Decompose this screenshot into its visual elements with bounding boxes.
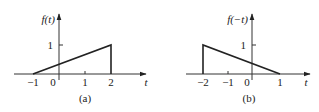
ylabel-b: f(−t) <box>227 13 248 26</box>
xlabel-a: t <box>144 76 148 88</box>
signal-f-t <box>33 45 111 74</box>
ytick-label-b: 1 <box>241 39 247 51</box>
xtick-label-b-1: −1 <box>222 76 234 88</box>
panel-b: f(−t) t 1 −2 −1 0 1 (b) <box>186 13 310 105</box>
xtick-label-b-3: 1 <box>277 76 283 88</box>
caption-a: (a) <box>79 92 92 105</box>
panel-a: f(t) t 1 −1 0 1 2 (a) <box>14 13 148 105</box>
xtick-label-a-1: 0 <box>50 76 56 88</box>
xtick-label-b-0: −2 <box>197 76 209 88</box>
xtick-label-b-2: 0 <box>244 76 250 88</box>
ytick-label-a: 1 <box>48 39 54 51</box>
caption-b: (b) <box>243 92 256 105</box>
xlabel-b: t <box>304 76 308 88</box>
ylabel-a: f(t) <box>42 13 56 26</box>
signal-diagram: f(t) t 1 −1 0 1 2 (a) f(−t) t 1 −2 −1 0 … <box>0 0 319 112</box>
xtick-label-a-2: 1 <box>82 76 88 88</box>
xtick-label-a-3: 2 <box>108 76 114 88</box>
xtick-label-a-0: −1 <box>27 76 39 88</box>
